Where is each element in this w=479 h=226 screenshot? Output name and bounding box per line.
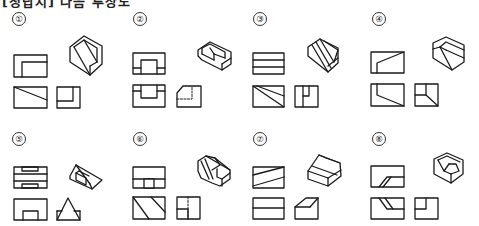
- problem-4: ④: [360, 0, 478, 110]
- problem-3: ③: [240, 0, 358, 110]
- orthographic-drawing: [360, 0, 478, 110]
- orthographic-drawing: [0, 113, 118, 223]
- problem-2: ②: [120, 0, 238, 110]
- orthographic-drawing: [240, 0, 358, 110]
- problem-5: ⑤: [0, 113, 118, 223]
- orthographic-drawing: [120, 113, 238, 223]
- orthographic-drawing: [120, 0, 238, 110]
- problem-8: ⑧: [360, 113, 478, 223]
- problem-1: ①: [0, 0, 118, 110]
- orthographic-drawing: [360, 113, 478, 223]
- orthographic-drawing: [240, 113, 358, 223]
- orthographic-drawing: [0, 0, 118, 110]
- problem-7: ⑦: [240, 113, 358, 223]
- problem-6: ⑥: [120, 113, 238, 223]
